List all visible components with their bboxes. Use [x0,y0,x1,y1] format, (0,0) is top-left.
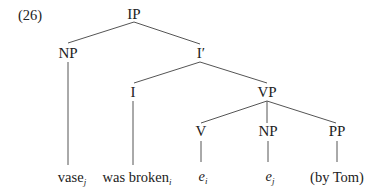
example-number: (26) [18,7,42,24]
leaf-vase: vasej [58,169,86,190]
node-pp: PP [329,123,346,139]
edge-vp-pp [267,101,336,123]
edge-vp-v [201,101,267,123]
node-vp: VP [257,84,276,100]
node-np-object: NP [258,123,277,139]
edge-ibar-vp [200,62,267,83]
leaf-trace-e-j: ej [266,168,275,189]
leaf-was-broken: was brokeni [103,169,172,190]
leaf-trace-e-i: ei [199,168,208,189]
edge-ip-np [68,22,134,43]
edge-ibar-i [134,62,200,83]
syntax-tree: (26) IP NP I′ I VP V NP PP vasej was bro… [0,0,382,190]
node-ip: IP [127,6,140,22]
node-i: I [131,84,136,100]
node-np-subject: NP [58,45,77,61]
leaf-by-tom: (by Tom) [310,169,364,185]
node-i-bar: I′ [197,45,205,61]
tree-branches [0,0,382,190]
node-v: V [196,123,207,139]
edge-ip-ibar [134,22,200,44]
